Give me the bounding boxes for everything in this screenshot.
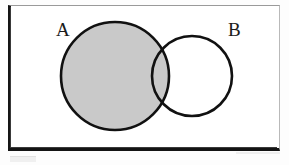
venn-canvas bbox=[0, 0, 289, 165]
venn-diagram-figure: A B bbox=[0, 0, 289, 165]
set-a-label: A bbox=[56, 20, 70, 39]
scan-artifact-bottom-right bbox=[236, 152, 280, 154]
scan-artifact-bottom-left bbox=[10, 156, 36, 162]
set-b-label: B bbox=[228, 20, 241, 39]
